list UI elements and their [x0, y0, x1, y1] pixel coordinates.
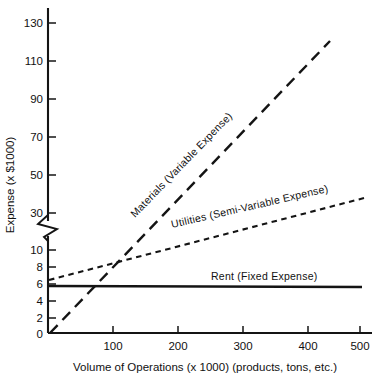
series-line-materials — [50, 41, 330, 333]
expense-volume-line-chart: 130 110 90 70 50 30 10 8 6 4 2 0 100 200… — [0, 0, 378, 379]
y-label-50: 50 — [30, 169, 43, 181]
y-ticks-upper — [48, 23, 56, 213]
x-label-300: 300 — [233, 340, 252, 352]
y-label-130: 130 — [24, 17, 43, 29]
y-label-30: 30 — [30, 207, 43, 219]
x-label-500: 500 — [350, 340, 369, 352]
y-label-4: 4 — [37, 295, 44, 307]
y-label-90: 90 — [30, 93, 43, 105]
series-line-rent — [49, 286, 362, 287]
y-label-6: 6 — [37, 278, 43, 290]
y-tick-labels: 130 110 90 70 50 30 10 8 6 4 2 0 — [24, 17, 44, 340]
series-label-rent: Rent (Fixed Expense) — [211, 270, 318, 282]
x-label-400: 400 — [298, 340, 317, 352]
y-label-70: 70 — [30, 131, 43, 143]
y-label-110: 110 — [25, 55, 43, 67]
y-label-2: 2 — [37, 312, 43, 324]
x-tick-labels: 100 200 300 400 500 — [103, 340, 369, 352]
y-ticks-lower — [48, 250, 56, 333]
series-label-materials: Materials (Variable Expense) — [128, 110, 235, 220]
y-label-10: 10 — [30, 244, 43, 256]
chart-container: 130 110 90 70 50 30 10 8 6 4 2 0 100 200… — [0, 0, 378, 379]
x-label-100: 100 — [103, 340, 122, 352]
x-label-200: 200 — [168, 340, 187, 352]
y-label-8: 8 — [37, 261, 43, 273]
y-axis-title: Expense (x $1000) — [4, 137, 16, 234]
series-label-utilities: Utilities (Semi-Variable Expense) — [170, 182, 330, 230]
y-label-0: 0 — [37, 328, 43, 340]
x-axis-title: Volume of Operations (x 1000) (products,… — [73, 361, 337, 373]
